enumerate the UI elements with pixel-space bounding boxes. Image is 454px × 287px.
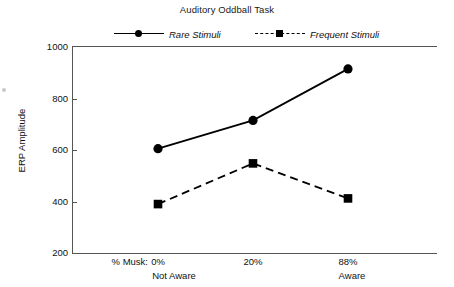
data-point-marker[interactable] <box>343 64 352 73</box>
series-line-frequent-stimuli <box>158 163 348 204</box>
data-point-marker[interactable] <box>153 144 162 153</box>
data-point-marker[interactable] <box>344 194 353 203</box>
series-plot-layer <box>0 0 454 287</box>
data-point-marker[interactable] <box>248 116 257 125</box>
data-point-marker[interactable] <box>154 200 163 209</box>
series-line-rare-stimuli <box>158 69 348 149</box>
chart-figure: Auditory Oddball Task Rare Stimuli Frequ… <box>0 0 454 287</box>
data-point-marker[interactable] <box>249 159 258 168</box>
